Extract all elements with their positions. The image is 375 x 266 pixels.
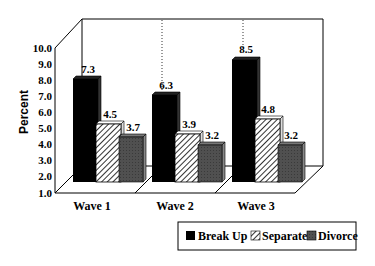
y-tick: 5.0 xyxy=(38,122,52,134)
bar-break-up xyxy=(232,60,257,182)
y-tick: 7.0 xyxy=(38,90,52,102)
x-tick: Wave 1 xyxy=(73,199,111,213)
bar-divorce xyxy=(198,145,222,182)
bar-divorce xyxy=(278,145,302,182)
y-tick: 6.0 xyxy=(38,106,52,118)
bar-separate xyxy=(96,124,121,182)
legend-label: Separate xyxy=(262,229,308,243)
value-label: 4.5 xyxy=(103,108,117,120)
legend-swatch-separate xyxy=(251,231,260,240)
bar-group-wave-2: 6.3 3.9 3.2 xyxy=(152,79,225,182)
bar-break-up xyxy=(152,95,177,182)
bar-group-wave-3: 8.5 4.8 3.2 xyxy=(232,43,305,182)
bar-group-wave-1: 7.3 4.5 3.7 xyxy=(73,63,146,182)
value-label: 3.2 xyxy=(284,129,298,141)
y-tick: 9.0 xyxy=(38,58,52,70)
value-label: 8.5 xyxy=(239,43,253,55)
legend: Break Up Separate Divorce xyxy=(178,222,358,250)
guide-lines xyxy=(162,20,243,90)
bar-divorce xyxy=(119,137,143,182)
y-tick: 2.0 xyxy=(38,170,52,182)
y-tick: 4.0 xyxy=(38,138,52,150)
bar-separate xyxy=(175,134,200,182)
y-axis: 10.0 9.0 8.0 7.0 6.0 5.0 4.0 3.0 2.0 1.0… xyxy=(17,42,53,199)
legend-label: Divorce xyxy=(318,229,358,243)
value-label: 3.7 xyxy=(126,121,140,133)
value-label: 3.9 xyxy=(182,118,196,130)
value-label: 4.8 xyxy=(261,103,275,115)
value-label: 7.3 xyxy=(81,63,95,75)
y-tick: 1.0 xyxy=(38,187,52,199)
y-tick: 3.0 xyxy=(38,154,52,166)
legend-label: Break Up xyxy=(198,229,248,243)
y-tick: 10.0 xyxy=(33,42,53,54)
x-axis: Wave 1 Wave 2 Wave 3 xyxy=(73,199,275,213)
x-tick: Wave 3 xyxy=(237,199,275,213)
y-tick: 8.0 xyxy=(38,74,52,86)
y-axis-label: Percent xyxy=(17,90,31,134)
legend-swatch-divorce xyxy=(307,231,316,240)
value-label: 6.3 xyxy=(159,79,173,91)
bar-break-up xyxy=(73,79,98,182)
chart: 10.0 9.0 8.0 7.0 6.0 5.0 4.0 3.0 2.0 1.0… xyxy=(0,0,375,266)
legend-swatch-break-up xyxy=(186,231,195,240)
x-tick: Wave 2 xyxy=(156,199,194,213)
value-label: 3.2 xyxy=(205,129,219,141)
bar-separate xyxy=(255,119,280,182)
